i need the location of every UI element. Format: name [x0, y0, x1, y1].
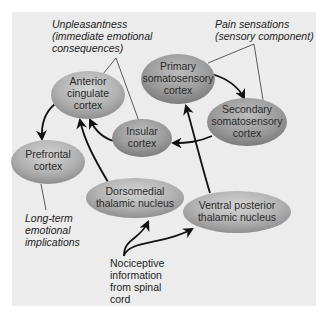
node-ventral-posterior-thalamic-nucleus: Ventral posterior thalamic nucleus	[183, 191, 291, 233]
leader-pain-to-secondary	[254, 44, 263, 100]
annotation-line: consequences)	[52, 42, 123, 54]
arrow-primary-to-secondary	[212, 74, 244, 98]
annotation-pain-sensations: Pain sensations (sensory component)	[215, 18, 314, 42]
annotation-line: Nociceptive	[110, 257, 164, 269]
leader-pain-to-primary	[208, 44, 254, 63]
pain-pathway-diagram: Anterior cingulate cortex Primary somato…	[0, 0, 332, 319]
node-label: cortex	[34, 160, 63, 172]
arrow-spinal-to-ventral	[124, 229, 192, 256]
node-prefrontal-cortex: Prefrontal cortex	[11, 140, 85, 184]
node-secondary-somatosensory-cortex: Secondary somatosensory cortex	[207, 98, 287, 146]
annotation-line: emotional	[25, 224, 71, 236]
node-label: thalamic nucleus	[96, 197, 174, 209]
node-anterior-cingulate-cortex: Anterior cingulate cortex	[51, 71, 125, 119]
arrow-secondary-to-insular	[173, 136, 212, 143]
node-label: Secondary	[222, 103, 273, 115]
node-label: Insular	[126, 125, 158, 137]
node-insular-cortex: Insular cortex	[112, 119, 172, 157]
annotation-line: (immediate emotional	[52, 30, 153, 42]
annotation-line: Long-term	[25, 212, 73, 224]
node-label: cortex	[74, 99, 103, 111]
node-label: Primary	[160, 60, 197, 72]
node-label: cingulate	[67, 87, 109, 99]
annotation-line: Pain sensations	[215, 18, 290, 30]
node-label: Ventral posterior	[199, 199, 276, 211]
node-label: cortex	[128, 137, 157, 149]
node-label: Prefrontal	[25, 148, 71, 160]
leader-unpleasantness-to-cingulate	[103, 58, 116, 74]
node-label: thalamic nucleus	[198, 211, 276, 223]
node-primary-somatosensory-cortex: Primary somatosensory cortex	[141, 54, 215, 104]
annotation-line: information	[110, 269, 162, 281]
arrow-cingulate-to-prefrontal	[42, 104, 55, 139]
annotation-line: from spinal	[110, 281, 161, 293]
node-label: cortex	[233, 127, 262, 139]
annotation-nociceptive: Nociceptive information from spinal cord	[110, 257, 164, 305]
arrow-insular-to-cingulate	[90, 120, 114, 141]
node-label: somatosensory	[142, 72, 214, 84]
arrow-ventral-to-primary	[186, 106, 210, 193]
arrow-dorsomedial-to-cingulate	[80, 120, 108, 182]
node-label: somatosensory	[211, 115, 283, 127]
annotation-long-term: Long-term emotional implications	[25, 212, 81, 248]
annotation-line: Unpleasantness	[52, 18, 128, 30]
node-label: cortex	[164, 84, 193, 96]
leader-longterm-to-prefrontal	[41, 184, 46, 210]
annotation-unpleasantness: Unpleasantness (immediate emotional cons…	[52, 18, 153, 54]
annotation-line: (sensory component)	[215, 30, 314, 42]
node-label: Anterior	[70, 75, 107, 87]
node-label: Dorsomedial	[106, 185, 165, 197]
node-dorsomedial-thalamic-nucleus: Dorsomedial thalamic nucleus	[86, 178, 184, 218]
annotation-line: implications	[25, 236, 81, 248]
annotation-line: cord	[110, 293, 131, 305]
